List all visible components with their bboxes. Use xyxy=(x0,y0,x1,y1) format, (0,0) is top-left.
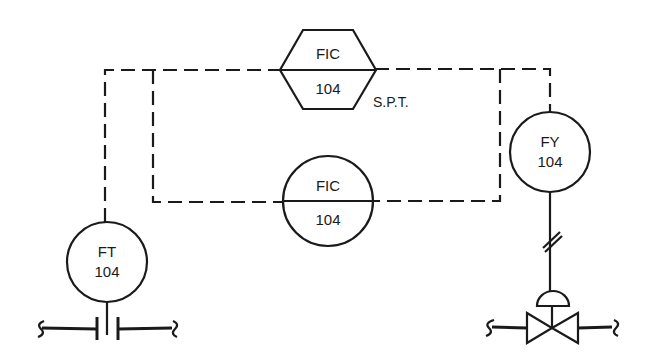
orifice-plate xyxy=(38,302,177,340)
fy-function: FY xyxy=(540,133,559,150)
ft-function: FT xyxy=(98,243,116,260)
signal-line-inner-right xyxy=(373,69,500,201)
valve-body-left xyxy=(527,313,552,343)
signal-line-inner-left xyxy=(153,70,282,202)
diaphragm-actuator-icon xyxy=(537,291,569,306)
orifice-pipe-right xyxy=(118,328,172,329)
fic-circle-instrument[interactable]: FIC 104 xyxy=(283,156,373,246)
fic-hex-function: FIC xyxy=(316,45,340,62)
fic-circle-function: FIC xyxy=(316,177,340,194)
fic-circle-loop: 104 xyxy=(315,211,340,228)
pipe-break-right-icon xyxy=(614,320,618,336)
fic-hexagon-instrument[interactable]: FIC 104 xyxy=(280,30,376,109)
pid-diagram: FIC 104 S.P.T. FIC 104 FY 104 xyxy=(0,0,650,358)
signal-line-ft-to-fic-hex xyxy=(105,70,282,222)
diagram-svg: FIC 104 S.P.T. FIC 104 FY 104 xyxy=(0,0,650,358)
pipe-break-right-ft-icon xyxy=(173,321,177,337)
fy-loop: 104 xyxy=(537,153,562,170)
fy-circle-shape xyxy=(510,112,590,192)
ft-loop: 104 xyxy=(94,263,119,280)
valve-pipe-left xyxy=(492,327,527,328)
ft-instrument[interactable]: FT 104 xyxy=(67,222,147,302)
pneumatic-signal-line xyxy=(543,192,562,292)
fic-hex-loop: 104 xyxy=(315,80,340,97)
orifice-pipe-left xyxy=(42,328,97,329)
valve-body-right xyxy=(552,313,578,343)
control-valve[interactable] xyxy=(527,291,578,343)
fy-instrument[interactable]: FY 104 xyxy=(510,112,590,192)
setpoint-label: S.P.T. xyxy=(373,94,409,110)
valve-pipe-right xyxy=(578,327,612,328)
ft-circle-shape xyxy=(67,222,147,302)
